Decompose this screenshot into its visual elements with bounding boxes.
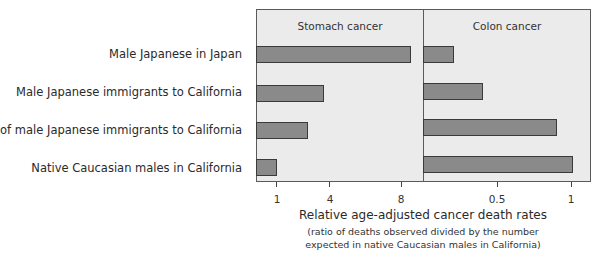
tick-colon-1	[571, 182, 572, 187]
colon-bar-immigrants	[423, 83, 483, 100]
tick-stomach-8	[401, 182, 402, 187]
category-label-caucasian: Native Caucasian males in California	[31, 161, 242, 175]
stomach-bar-sons	[256, 122, 308, 139]
x-axis-note: (ratio of deaths observed divided by the…	[256, 225, 590, 251]
x-axis-note-line1: (ratio of deaths observed divided by the…	[256, 225, 590, 238]
colon-bar-sons	[423, 119, 557, 136]
tick-label-stomach-4: 4	[327, 193, 334, 205]
tick-label-colon-1: 1	[568, 193, 575, 205]
category-label-sons: Sons of male Japanese immigrants to Cali…	[0, 123, 242, 137]
tick-label-colon-0-5: 0.5	[489, 193, 506, 205]
stomach-bar-caucasian	[256, 159, 277, 176]
tick-label-stomach-8: 8	[398, 193, 405, 205]
tick-colon-0-5	[497, 182, 498, 187]
x-axis-note-line2: expected in native Caucasian males in Ca…	[256, 238, 590, 251]
stomach-bar-japan	[256, 46, 411, 63]
tick-stomach-4	[329, 182, 330, 187]
x-axis-label: Relative age-adjusted cancer death rates	[256, 208, 590, 222]
stomach-panel-title: Stomach cancer	[257, 20, 423, 32]
tick-stomach-1	[276, 182, 277, 187]
colon-bar-japan	[423, 46, 454, 63]
colon-panel-title: Colon cancer	[424, 20, 590, 32]
category-label-japan: Male Japanese in Japan	[109, 47, 242, 61]
category-label-immigrants: Male Japanese immigrants to California	[16, 85, 242, 99]
stomach-bar-immigrants	[256, 85, 324, 102]
tick-label-stomach-1: 1	[274, 193, 281, 205]
colon-bar-caucasian	[423, 156, 573, 173]
